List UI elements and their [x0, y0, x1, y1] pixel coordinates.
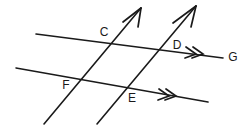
geometry-canvas [0, 0, 251, 132]
arrowhead-left-transversal-icon [123, 8, 141, 27]
line-left-transversal [44, 8, 141, 124]
point-label-c: C [100, 26, 109, 38]
point-label-d: D [173, 39, 182, 51]
point-label-g: G [228, 51, 237, 63]
parallel-mark-upper-icon [185, 47, 203, 58]
line-lower-parallel [16, 68, 208, 102]
parallel-mark-lower-icon [158, 89, 176, 100]
point-label-f: F [62, 79, 69, 91]
line-right-transversal [97, 6, 196, 124]
geometry-diagram: C D F E G [0, 0, 251, 132]
arrowhead-right-transversal-icon [173, 6, 196, 27]
point-label-e: E [128, 92, 136, 104]
